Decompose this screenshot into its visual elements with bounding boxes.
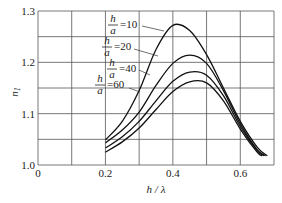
x-tick-label: 0.6 xyxy=(233,167,247,179)
fraction-numerator: h xyxy=(110,12,116,24)
fraction-denominator: a xyxy=(97,84,103,96)
x-tick-label: 0 xyxy=(35,167,41,179)
leader-line xyxy=(139,70,150,75)
y-tick-label: 1.3 xyxy=(21,5,35,17)
curve-label: ha=20 xyxy=(102,34,132,58)
leader-line xyxy=(142,26,164,31)
curve-labels: ha=10ha=20ha=40ha=60 xyxy=(95,12,138,96)
y-tick-label: 1.0 xyxy=(21,159,35,171)
fraction-numerator: h xyxy=(104,34,110,46)
label-value: =10 xyxy=(120,18,138,30)
grid xyxy=(38,11,274,165)
leader-line xyxy=(129,88,140,92)
y-tick-label: 1.2 xyxy=(21,56,35,68)
curve-label: ha=10 xyxy=(108,12,138,36)
fraction-numerator: h xyxy=(109,56,115,68)
label-value: =60 xyxy=(107,78,125,90)
y-tick-label: 1.1 xyxy=(21,108,35,120)
x-tick-label: 0.2 xyxy=(99,167,113,179)
x-axis-label: h / λ xyxy=(147,183,166,195)
x-tick-label: 0.4 xyxy=(166,167,180,179)
curve-label: ha=40 xyxy=(107,56,137,80)
fraction-numerator: h xyxy=(97,72,103,84)
label-value: =20 xyxy=(114,40,132,52)
refractive-index-chart: 00.20.40.61.01.11.21.3 ha=10ha=20ha=40ha… xyxy=(0,0,282,203)
fraction-denominator: a xyxy=(110,24,116,36)
axes: 00.20.40.61.01.11.21.3 xyxy=(21,5,247,179)
label-value: =40 xyxy=(119,62,137,74)
y-axis-label: n1 xyxy=(8,87,22,97)
